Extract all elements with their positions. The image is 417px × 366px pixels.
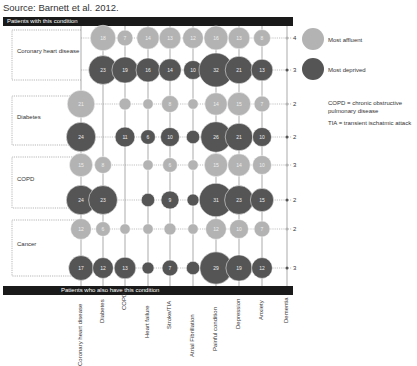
bubble [187,194,199,206]
svg-text:15: 15 [78,162,84,168]
svg-text:14: 14 [145,35,151,41]
column-label: COPD [121,293,127,310]
column-label: Painful condition [212,307,218,351]
column-label: Atrial Fibrillation [189,314,195,357]
legend-affluent-label: Most affluent [328,36,362,44]
svg-text:23: 23 [100,197,106,203]
svg-text:12: 12 [213,226,219,232]
svg-text:3: 3 [293,67,297,73]
bubble [143,99,153,109]
svg-text:4: 4 [293,35,297,41]
legend-deprived-label: Most deprived [328,66,366,74]
legend-note-copd: COPD = chronic obstructive pulmonary dis… [328,99,413,115]
svg-text:8: 8 [169,101,172,107]
svg-text:8: 8 [102,162,105,168]
svg-text:2: 2 [293,226,297,232]
svg-text:21: 21 [236,67,242,73]
bubble [188,224,198,234]
svg-text:7: 7 [261,226,264,232]
svg-text:16: 16 [213,35,219,41]
svg-text:18: 18 [100,35,106,41]
svg-text:16: 16 [145,67,151,73]
svg-text:7: 7 [124,35,127,41]
svg-text:2: 2 [293,134,297,140]
svg-text:3: 3 [293,265,297,271]
row-label: Coronary heart disease [17,48,79,54]
svg-text:13: 13 [259,67,265,73]
row-label: Diabetes [17,114,41,120]
svg-text:24: 24 [78,197,84,203]
svg-text:7: 7 [261,101,264,107]
svg-text:21: 21 [78,101,84,107]
svg-text:10: 10 [167,134,173,140]
bubble [119,98,131,110]
svg-text:14: 14 [213,101,219,107]
svg-text:8: 8 [261,35,264,41]
bubble [143,160,153,170]
row-label: COPD [17,176,34,182]
bubble [186,261,199,274]
svg-text:12: 12 [100,265,106,271]
bubble [188,160,198,170]
column-label: Heart failure [144,306,150,339]
svg-text:19: 19 [236,265,242,271]
svg-text:13: 13 [236,35,242,41]
column-label: Anxiety [258,300,264,320]
svg-text:3: 3 [293,162,297,168]
svg-text:21: 21 [236,134,242,140]
svg-text:15: 15 [259,197,265,203]
svg-text:19: 19 [122,67,128,73]
column-label: Stroke/TIA [166,301,172,329]
svg-text:9: 9 [169,197,172,203]
svg-text:23: 23 [100,67,106,73]
bubble [143,224,153,234]
svg-text:10: 10 [190,67,196,73]
svg-text:10: 10 [259,134,265,140]
svg-text:10: 10 [259,162,265,168]
bubble [120,224,130,234]
svg-text:12: 12 [190,35,196,41]
bubble [186,130,199,143]
svg-text:2: 2 [293,197,297,203]
svg-text:15: 15 [213,162,219,168]
svg-text:32: 32 [213,67,219,73]
svg-text:24: 24 [78,134,84,140]
bubble [142,262,154,274]
svg-text:12: 12 [78,226,84,232]
legend-note-tia: TIA = transient ischatmic attack [328,119,417,127]
column-label: Coronary heart disease [77,304,83,366]
svg-text:29: 29 [213,265,219,271]
column-label: Depression [235,299,241,329]
svg-text:13: 13 [167,35,173,41]
svg-text:14: 14 [236,162,242,168]
row-label: Cancer [17,241,36,247]
svg-text:26: 26 [213,134,219,140]
svg-text:15: 15 [236,101,242,107]
svg-text:7: 7 [169,265,172,271]
column-label: Diabetes [99,299,105,323]
svg-text:6: 6 [169,162,172,168]
svg-text:14: 14 [167,67,173,73]
svg-text:23: 23 [236,197,242,203]
svg-text:6: 6 [102,226,105,232]
svg-text:2: 2 [293,101,297,107]
svg-text:31: 31 [213,197,219,203]
bubble [141,193,154,206]
svg-text:12: 12 [259,265,265,271]
svg-text:11: 11 [122,134,127,140]
svg-text:10: 10 [236,226,242,232]
bubble [164,223,176,235]
svg-text:17: 17 [78,265,84,271]
column-label: Dementia [283,297,289,323]
svg-text:6: 6 [147,134,150,140]
svg-text:13: 13 [122,265,128,271]
bubble [188,99,198,109]
